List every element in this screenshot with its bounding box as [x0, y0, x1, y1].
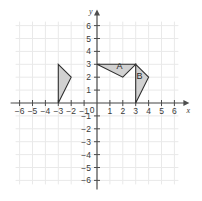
x-tick-label: 2	[120, 106, 125, 116]
y-tick-label: 2	[86, 72, 91, 82]
y-tick-label: 4	[86, 46, 91, 56]
left-triangle	[58, 64, 71, 103]
axis-lines	[11, 10, 190, 190]
y-tick-label: 1	[86, 85, 91, 95]
x-tick-label: 3	[133, 106, 138, 116]
shapes-layer	[58, 64, 148, 103]
x-tick-label: −4	[41, 106, 51, 116]
y-axis-arrow-icon	[94, 10, 100, 16]
x-tick-label: 4	[146, 106, 151, 116]
y-tick-label: −5	[81, 163, 91, 173]
x-tick-label: −2	[66, 106, 76, 116]
coordinate-plane-svg: −6−5−4−3−2−10123456−6−5−4−3−2−1123456 AB…	[0, 0, 202, 201]
x-tick-label: −3	[53, 106, 63, 116]
y-tick-label: −4	[81, 150, 91, 160]
x-tick-label: 5	[159, 106, 164, 116]
x-tick-label: 1	[108, 106, 113, 116]
y-tick-label: −3	[81, 137, 91, 147]
x-tick-label: −5	[28, 106, 38, 116]
x-axis-name: x	[185, 106, 190, 115]
triangle-b	[136, 64, 149, 103]
triangle-b-label: B	[137, 71, 143, 81]
x-tick-label: −6	[15, 106, 25, 116]
x-tick-label: 6	[172, 106, 177, 116]
coordinate-plane-figure: −6−5−4−3−2−10123456−6−5−4−3−2−1123456 AB…	[0, 0, 202, 201]
triangle-a-label: A	[117, 61, 123, 71]
y-tick-label: 6	[86, 21, 91, 31]
y-tick-label: −2	[81, 124, 91, 134]
y-tick-label: −1	[81, 111, 91, 121]
y-tick-label: 3	[86, 59, 91, 69]
y-tick-label: −6	[81, 175, 91, 185]
y-axis-name: y	[88, 7, 93, 16]
y-tick-label: 5	[86, 34, 91, 44]
axis-names-layer: xy	[88, 7, 190, 115]
